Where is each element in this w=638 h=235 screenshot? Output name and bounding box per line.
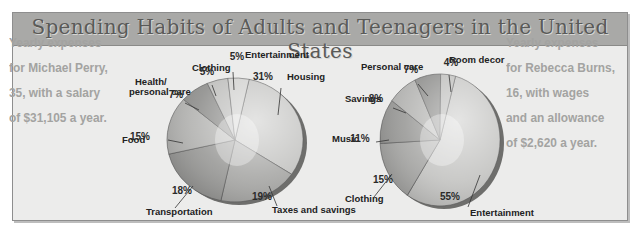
- pie-chart-rebecca-burns: Entertainment55%Clothing15%Music11%Savin…: [332, 54, 535, 218]
- slice-percent: 15%: [130, 131, 150, 142]
- slice-percent: 5%: [200, 66, 215, 77]
- slice-percent: 31%: [253, 71, 273, 82]
- slice-percent: 8%: [369, 93, 384, 104]
- slice-percent: 7%: [404, 64, 419, 75]
- slice-percent: 19%: [252, 191, 272, 202]
- slice-label: Taxes and savings: [272, 204, 356, 215]
- slice-label: Transportation: [146, 206, 213, 217]
- pie-charts: Housing31%Taxes and savings19%Transporta…: [0, 0, 638, 235]
- slice-percent: 7%: [169, 89, 184, 100]
- slice-label: Entertainment: [245, 49, 310, 60]
- slice-percent: 55%: [440, 191, 460, 202]
- slice-percent: 4%: [444, 57, 459, 68]
- slice-percent: 15%: [373, 174, 393, 185]
- slice-percent: 5%: [230, 51, 245, 62]
- slice-label: Entertainment: [470, 207, 535, 218]
- slice-label: Clothing: [345, 193, 384, 204]
- silhouette-icon: [420, 114, 464, 166]
- slice-percent: 11%: [350, 133, 370, 144]
- silhouette-icon: [215, 114, 259, 166]
- slice-percent: 18%: [172, 185, 192, 196]
- slice-label: Housing: [287, 71, 325, 82]
- pie-chart-michael-perry: Housing31%Taxes and savings19%Transporta…: [122, 49, 356, 217]
